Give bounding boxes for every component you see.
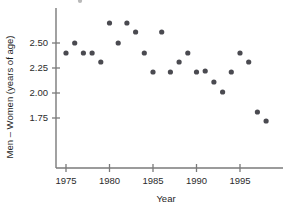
x-tick-label: 1985 (142, 175, 163, 186)
data-point (185, 50, 190, 55)
y-axis-title: Men – Women (years of age) (4, 36, 15, 159)
data-point (264, 118, 269, 123)
data-point (150, 69, 155, 74)
data-point (159, 29, 164, 34)
x-axis-title: Year (156, 193, 175, 204)
data-point (194, 69, 199, 74)
data-point (107, 20, 112, 25)
data-point (142, 50, 147, 55)
cropped-top-mark (78, 0, 82, 3)
axes-group (56, 8, 283, 168)
y-tick-label: 2.50 (30, 37, 49, 48)
scatter-chart-figure: 1.752.002.252.50 19751980198519901995 Ye… (0, 0, 290, 208)
x-tick-label: 1975 (55, 175, 76, 186)
data-point (90, 50, 95, 55)
data-point (133, 29, 138, 34)
data-point (177, 59, 182, 64)
data-point (255, 109, 260, 114)
data-point (211, 79, 216, 84)
x-tick-label: 1990 (186, 175, 207, 186)
y-tick-label: 1.75 (30, 112, 49, 123)
data-point (63, 50, 68, 55)
data-point (237, 50, 242, 55)
data-point (116, 40, 121, 45)
data-point (246, 59, 251, 64)
x-tick-label: 1980 (99, 175, 120, 186)
plot-canvas: 1.752.002.252.50 19751980198519901995 Ye… (0, 0, 290, 208)
data-point (220, 89, 225, 94)
data-points-group (63, 20, 268, 123)
data-point (98, 59, 103, 64)
x-tick-label: 1995 (229, 175, 250, 186)
y-tick-label: 2.25 (30, 62, 49, 73)
data-point (72, 40, 77, 45)
data-point (124, 20, 129, 25)
data-point (81, 50, 86, 55)
stray-mark-group (78, 0, 82, 3)
data-point (203, 68, 208, 73)
data-point (229, 69, 234, 74)
y-tick-label: 2.00 (30, 87, 49, 98)
data-point (168, 69, 173, 74)
